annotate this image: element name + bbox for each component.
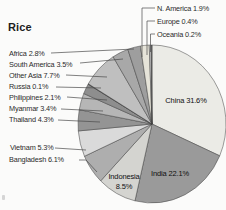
chart-title: Rice [8, 21, 32, 33]
print-artifact-mark [2, 195, 5, 200]
rice-pie-chart-figure: China 31.6%India 22.1%Indonesia8.5%Bangl… [0, 0, 226, 210]
pie-chart [0, 0, 226, 210]
